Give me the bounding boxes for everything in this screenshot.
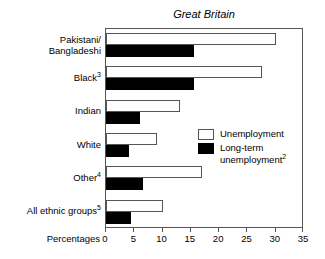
y-axis-label: Other4 xyxy=(5,172,105,183)
bar-group xyxy=(106,196,302,229)
legend-label: Long-term unemployment2 xyxy=(220,142,322,165)
bar-longterm-unemployment xyxy=(106,212,131,224)
legend-swatch-black xyxy=(198,143,214,154)
bar-longterm-unemployment xyxy=(106,78,194,90)
bar-longterm-unemployment xyxy=(106,112,140,124)
bar-unemployment xyxy=(106,166,202,178)
legend-item: Long-term unemployment2 xyxy=(198,142,322,165)
x-axis-tick-mark xyxy=(302,228,303,232)
legend-swatch-white xyxy=(198,129,214,140)
x-axis-tick-label: 5 xyxy=(131,233,136,244)
x-axis-tick-label: 0 xyxy=(102,233,107,244)
bar-group xyxy=(106,29,302,62)
y-axis-category-labels: Pakistani/BangladeshiBlack3IndianWhiteOt… xyxy=(0,28,105,228)
x-axis: 05101520253035 xyxy=(105,228,303,254)
bar-group xyxy=(106,96,302,129)
x-axis-tick-label: 30 xyxy=(269,233,280,244)
y-axis-label: White xyxy=(5,139,105,150)
x-axis-tick-mark xyxy=(218,228,219,232)
x-axis-tick-mark xyxy=(190,228,191,232)
bar-longterm-unemployment xyxy=(106,145,129,157)
bar-longterm-unemployment xyxy=(106,178,143,190)
y-axis-label: Pakistani/Bangladeshi xyxy=(5,34,105,56)
chart-title: Great Britain xyxy=(105,8,303,21)
y-axis-label: Indian xyxy=(5,105,105,116)
x-axis-tick-mark xyxy=(162,228,163,232)
x-axis-tick-mark xyxy=(133,228,134,232)
x-axis-title: Percentages xyxy=(20,233,100,244)
legend-label: Unemployment xyxy=(220,128,322,140)
bar-unemployment xyxy=(106,133,157,145)
x-axis-tick-label: 20 xyxy=(213,233,224,244)
x-axis-tick-mark xyxy=(105,228,106,232)
y-axis-label: All ethnic groups5 xyxy=(5,205,105,216)
x-axis-tick-label: 25 xyxy=(241,233,252,244)
bar-unemployment xyxy=(106,66,262,78)
x-axis-tick-mark xyxy=(275,228,276,232)
x-axis-tick-label: 35 xyxy=(298,233,309,244)
x-axis-tick-label: 15 xyxy=(185,233,196,244)
bar-unemployment xyxy=(106,100,180,112)
bar-group xyxy=(106,62,302,95)
chart-legend: UnemploymentLong-term unemployment2 xyxy=(198,128,322,166)
bar-group xyxy=(106,162,302,195)
legend-item: Unemployment xyxy=(198,128,322,141)
bar-unemployment xyxy=(106,200,163,212)
y-axis-label: Black3 xyxy=(5,72,105,83)
bar-longterm-unemployment xyxy=(106,45,194,57)
bar-unemployment xyxy=(106,33,276,45)
x-axis-tick-label: 10 xyxy=(156,233,167,244)
chart-container: Great Britain Pakistani/BangladeshiBlack… xyxy=(0,0,325,259)
x-axis-tick-mark xyxy=(246,228,247,232)
